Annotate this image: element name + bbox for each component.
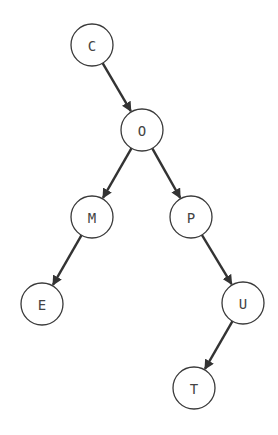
node-label: U bbox=[239, 296, 247, 312]
edge-o-p bbox=[152, 148, 180, 198]
tree-node-t: T bbox=[173, 367, 215, 409]
edge-p-u bbox=[202, 235, 232, 284]
nodes-group: COMPEUT bbox=[21, 24, 264, 409]
node-label: E bbox=[38, 297, 46, 313]
edge-m-e bbox=[53, 235, 82, 285]
tree-node-m: M bbox=[71, 196, 113, 238]
edge-o-m bbox=[103, 148, 132, 198]
edge-c-o bbox=[103, 63, 131, 111]
node-label: O bbox=[138, 123, 146, 139]
node-label: P bbox=[187, 210, 195, 226]
tree-node-c: C bbox=[71, 24, 113, 66]
node-label: T bbox=[190, 381, 199, 397]
node-label: M bbox=[88, 210, 96, 226]
tree-node-e: E bbox=[21, 283, 63, 325]
edge-u-t bbox=[205, 321, 233, 369]
tree-node-p: P bbox=[170, 196, 212, 238]
tree-node-o: O bbox=[121, 109, 163, 151]
tree-diagram: COMPEUT bbox=[0, 0, 278, 435]
node-label: C bbox=[88, 38, 96, 54]
tree-node-u: U bbox=[222, 282, 264, 324]
